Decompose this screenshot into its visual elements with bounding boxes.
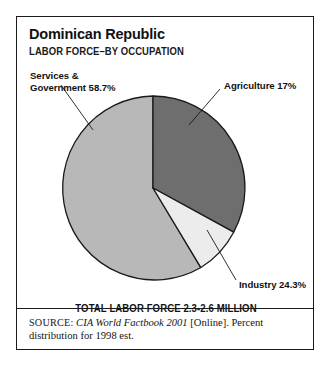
callout-label-agriculture: Agriculture 17%	[224, 80, 296, 92]
source-label: SOURCE:	[29, 317, 73, 328]
source-divider	[17, 308, 314, 309]
pie-chart-svg	[17, 17, 314, 308]
chart-figure: Dominican Republic LABOR FORCE–BY OCCUPA…	[16, 16, 314, 350]
callout-label-industry: Industry 24.3%	[239, 279, 306, 291]
source-note: SOURCE: CIA World Factbook 2001 [Online]…	[29, 316, 305, 343]
source-work-title: CIA World Factbook 2001	[76, 317, 188, 328]
callout-label-services: Services & Government 58.7%	[30, 70, 116, 93]
pie-chart: Services & Government 58.7% Agriculture …	[17, 17, 314, 308]
